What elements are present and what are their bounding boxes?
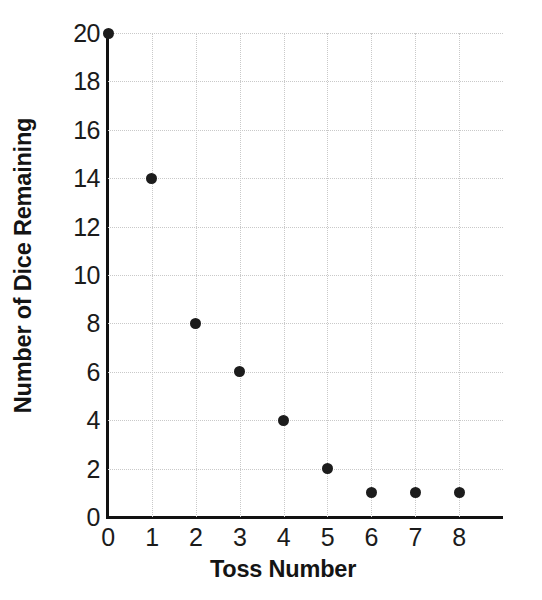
data-point xyxy=(366,487,377,498)
y-tick-label: 18 xyxy=(56,67,100,96)
x-axis-title: Toss Number xyxy=(48,556,518,583)
data-point xyxy=(454,487,465,498)
x-tick-label: 1 xyxy=(132,523,172,552)
data-point xyxy=(278,415,289,426)
data-point xyxy=(190,318,201,329)
y-tick-label: 12 xyxy=(56,212,100,241)
x-axis-line xyxy=(106,516,503,519)
gridline-vertical xyxy=(327,33,328,517)
x-tick-label: 3 xyxy=(220,523,260,552)
y-tick-label: 16 xyxy=(56,115,100,144)
data-point xyxy=(103,28,114,39)
gridline-vertical xyxy=(284,33,285,517)
y-tick-label: 14 xyxy=(56,164,100,193)
gridline-horizontal xyxy=(108,372,503,373)
y-axis-title: Number of Dice Remaining xyxy=(11,117,38,413)
x-tick-label: 6 xyxy=(351,523,391,552)
plot-area xyxy=(108,33,503,517)
x-tick-label: 5 xyxy=(307,523,347,552)
x-tick-label: 2 xyxy=(176,523,216,552)
gridline-horizontal xyxy=(108,420,503,421)
gridline-vertical xyxy=(371,33,372,517)
x-tick-label: 8 xyxy=(439,523,479,552)
gridline-vertical xyxy=(459,33,460,517)
data-point xyxy=(234,366,245,377)
gridline-horizontal xyxy=(108,275,503,276)
gridline-horizontal xyxy=(108,130,503,131)
gridline-horizontal xyxy=(108,178,503,179)
gridline-horizontal xyxy=(108,469,503,470)
gridline-horizontal xyxy=(108,81,503,82)
gridline-vertical xyxy=(196,33,197,517)
gridline-vertical xyxy=(415,33,416,517)
gridline-vertical xyxy=(240,33,241,517)
y-tick-label: 6 xyxy=(56,357,100,386)
gridline-horizontal xyxy=(108,323,503,324)
y-axis-title-container: Number of Dice Remaining xyxy=(0,0,48,530)
y-tick-label: 4 xyxy=(56,406,100,435)
y-tick-label: 10 xyxy=(56,261,100,290)
gridline-vertical xyxy=(152,33,153,517)
data-point xyxy=(410,487,421,498)
y-axis-tick-labels: 02468101214161820 xyxy=(50,33,100,517)
data-point xyxy=(322,463,333,474)
x-axis-tick-labels: 012345678 xyxy=(108,523,503,557)
x-tick-label: 4 xyxy=(264,523,304,552)
data-point xyxy=(146,173,157,184)
scatter-plot-figure: Number of Dice Remaining 024681012141618… xyxy=(0,0,542,600)
x-tick-label: 7 xyxy=(395,523,435,552)
x-tick-label: 0 xyxy=(88,523,128,552)
gridline-horizontal xyxy=(108,227,503,228)
y-tick-label: 8 xyxy=(56,309,100,338)
y-tick-label: 20 xyxy=(56,19,100,48)
gridline-horizontal xyxy=(108,33,503,34)
y-tick-label: 2 xyxy=(56,454,100,483)
